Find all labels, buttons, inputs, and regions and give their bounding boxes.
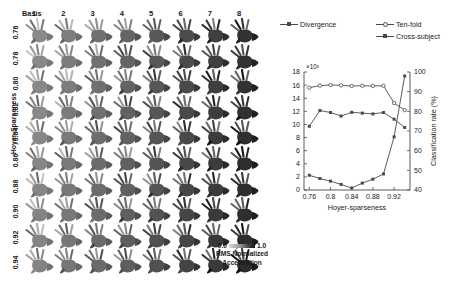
datapoint-cross-subject xyxy=(371,112,374,115)
hand-heatmap xyxy=(54,120,83,146)
datapoint-ten-fold xyxy=(350,84,353,87)
y-exponent-label: ×10³ xyxy=(306,63,319,70)
series-line-divergence xyxy=(309,76,404,188)
hand-cell-r6-c7 xyxy=(230,172,259,198)
row-header-0-92: 0.92 xyxy=(12,227,19,247)
column-header-1: 1 xyxy=(28,9,40,18)
hand-cell-r3-c6 xyxy=(201,95,230,121)
hand-cell-r8-c0 xyxy=(25,223,54,249)
hand-heatmap xyxy=(201,95,230,121)
hand-cell-r0-c2 xyxy=(84,18,113,44)
right-ytick-label-100: 100 xyxy=(414,68,426,75)
hand-cell-r1-c7 xyxy=(230,44,259,70)
hand-heatmap xyxy=(230,18,259,44)
hand-heatmap xyxy=(201,172,230,198)
series-line-cross-subject xyxy=(309,111,404,128)
hand-cell-r7-c6 xyxy=(201,197,230,223)
row-header-0-82: 0.82 xyxy=(12,99,19,119)
colorbar-gradient-swatch xyxy=(229,244,255,248)
hand-cell-r5-c2 xyxy=(84,146,113,172)
hand-heatmap xyxy=(54,44,83,70)
row-header-0-78: 0.78 xyxy=(12,48,19,68)
hand-heatmap xyxy=(54,146,83,172)
hand-heatmap xyxy=(54,18,83,44)
datapoint-cross-subject xyxy=(382,111,385,114)
datapoint-divergence xyxy=(403,74,406,77)
hand-heatmap xyxy=(172,44,201,70)
datapoint-cross-subject xyxy=(361,112,364,115)
hand-cell-r1-c6 xyxy=(201,44,230,70)
datapoint-divergence xyxy=(340,183,343,186)
hand-heatmap xyxy=(113,44,142,70)
hand-heatmap xyxy=(142,172,171,198)
hand-cell-r6-c0 xyxy=(25,172,54,198)
hand-heatmap xyxy=(54,248,83,274)
right-axis-title: Classification rate (%) xyxy=(429,96,438,166)
left-ytick-label-2: 2 xyxy=(296,173,300,180)
hand-cell-r1-c4 xyxy=(142,44,171,70)
hand-cell-r1-c0 xyxy=(25,44,54,70)
hand-cell-r6-c2 xyxy=(84,172,113,198)
hand-heatmap xyxy=(230,197,259,223)
hand-heatmap xyxy=(230,95,259,121)
hand-heatmap xyxy=(230,69,259,95)
xtick-label-0.92: 0.92 xyxy=(387,193,401,200)
hand-cell-r9-c1 xyxy=(54,248,83,274)
hand-cell-r1-c3 xyxy=(113,44,142,70)
xtick-label-0.88: 0.88 xyxy=(366,193,380,200)
hand-cell-r4-c4 xyxy=(142,120,171,146)
hand-cell-r7-c0 xyxy=(25,197,54,223)
hand-heatmap xyxy=(142,120,171,146)
datapoint-ten-fold xyxy=(339,84,342,87)
left-ytick-label-6: 6 xyxy=(296,147,300,154)
hand-cell-r9-c3 xyxy=(113,248,142,274)
hand-heatmap xyxy=(84,172,113,198)
hand-heatmap xyxy=(25,95,54,121)
hand-cell-r7-c2 xyxy=(84,197,113,223)
hand-cell-r0-c0 xyxy=(25,18,54,44)
hand-cell-r2-c4 xyxy=(142,69,171,95)
hand-heatmap xyxy=(172,197,201,223)
row-header-0-90: 0.90 xyxy=(12,202,19,222)
datapoint-divergence xyxy=(318,177,321,180)
hand-heatmap xyxy=(25,44,54,70)
column-header-3: 3 xyxy=(87,9,99,18)
hand-heatmap xyxy=(172,146,201,172)
hand-cell-r7-c3 xyxy=(113,197,142,223)
hand-heatmap xyxy=(54,223,83,249)
hand-cell-r6-c5 xyxy=(172,172,201,198)
hand-heatmap xyxy=(201,197,230,223)
hand-heatmap xyxy=(113,172,142,198)
hand-heatmap xyxy=(172,18,201,44)
hand-cell-r7-c5 xyxy=(172,197,201,223)
right-ytick-label-60: 60 xyxy=(414,147,422,154)
hand-cell-r6-c3 xyxy=(113,172,142,198)
datapoint-cross-subject xyxy=(350,111,353,114)
hand-cell-r9-c2 xyxy=(84,248,113,274)
datapoint-ten-fold xyxy=(392,101,395,104)
hand-cell-r1-c2 xyxy=(84,44,113,70)
left-ytick-label-8: 8 xyxy=(296,134,300,141)
hand-heatmap xyxy=(172,120,201,146)
hand-heatmap xyxy=(172,69,201,95)
datapoint-divergence xyxy=(308,174,311,177)
hand-cell-r9-c4 xyxy=(142,248,171,274)
left-ytick-label-10: 10 xyxy=(292,121,300,128)
hand-heatmap xyxy=(25,120,54,146)
hand-cell-r3-c2 xyxy=(84,95,113,121)
hand-cell-r6-c1 xyxy=(54,172,83,198)
hand-heatmap xyxy=(84,120,113,146)
datapoint-cross-subject xyxy=(393,118,396,121)
hand-heatmap xyxy=(25,146,54,172)
hand-cell-r3-c7 xyxy=(230,95,259,121)
left-ytick-label-14: 14 xyxy=(292,95,300,102)
right-ytick-label-80: 80 xyxy=(414,108,422,115)
hand-heatmap xyxy=(142,69,171,95)
row-header-0-84: 0.84 xyxy=(12,125,19,145)
column-header-8: 8 xyxy=(233,9,245,18)
hand-basis-grid-panel: Basis 12345678 Hoyer-Sparseness 0.760.78… xyxy=(0,0,262,291)
datapoint-cross-subject xyxy=(318,109,321,112)
hand-cell-r2-c1 xyxy=(54,69,83,95)
datapoint-ten-fold xyxy=(371,84,374,87)
hand-heatmap xyxy=(25,18,54,44)
